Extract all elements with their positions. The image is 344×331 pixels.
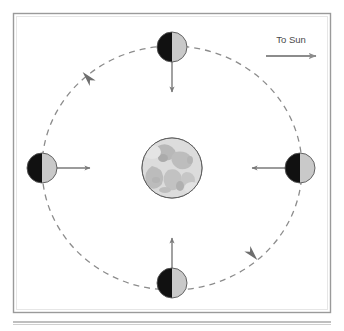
moon-orbit-figure: To Sun <box>0 0 344 331</box>
earth-body <box>142 138 202 198</box>
to-sun-label: To Sun <box>276 34 306 45</box>
diagram-canvas: To Sun <box>0 0 344 331</box>
